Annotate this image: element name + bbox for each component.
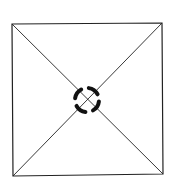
diagonal-line-2 [13,23,162,176]
square-diagonals-diagram [0,0,173,186]
